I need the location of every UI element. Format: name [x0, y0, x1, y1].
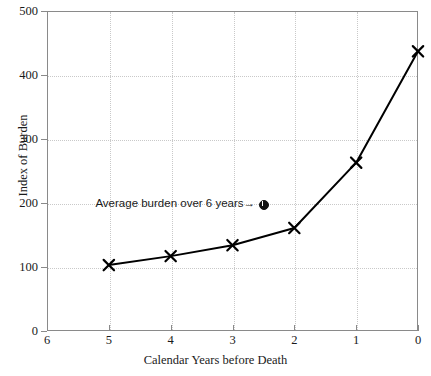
gridline-x-5 [110, 12, 111, 330]
y-axis-title: Index of Burden [16, 86, 31, 226]
gridline-y-300 [48, 140, 417, 141]
xtick-mark-6 [47, 325, 48, 331]
annotation-label: Average burden over 6 years→ [95, 198, 255, 210]
xtick-mark-2 [294, 325, 295, 331]
ytick-mark-100 [41, 267, 47, 268]
gridline-x-2 [295, 12, 296, 330]
gridline-x-3 [234, 12, 235, 330]
ytick-label-100: 100 [19, 261, 38, 274]
ytick-mark-400 [41, 75, 47, 76]
xtick-mark-4 [171, 325, 172, 331]
ytick-mark-200 [41, 203, 47, 204]
ytick-mark-500 [41, 11, 47, 12]
gridline-y-100 [48, 268, 417, 269]
xtick-label-4: 4 [168, 334, 174, 347]
plot-area [47, 11, 418, 331]
xtick-label-5: 5 [106, 334, 112, 347]
ytick-mark-0 [41, 331, 47, 332]
xtick-label-2: 2 [291, 334, 297, 347]
gridline-x-1 [357, 12, 358, 330]
xtick-label-0: 0 [415, 334, 421, 347]
xtick-mark-0 [418, 325, 419, 331]
x-axis-title: Calendar Years before Death [0, 353, 431, 368]
gridline-x-4 [172, 12, 173, 330]
ytick-mark-300 [41, 139, 47, 140]
ytick-label-400: 400 [19, 69, 38, 82]
gridline-y-400 [48, 76, 417, 77]
chart-figure: 500 400 300 200 100 0 6 5 4 3 2 1 0 Cale… [0, 0, 431, 376]
xtick-label-1: 1 [353, 334, 359, 347]
xtick-mark-5 [109, 325, 110, 331]
ytick-label-0: 0 [32, 325, 38, 338]
xtick-label-3: 3 [229, 334, 235, 347]
xtick-mark-3 [233, 325, 234, 331]
xtick-label-6: 6 [44, 334, 50, 347]
ytick-label-500: 500 [19, 5, 38, 18]
xtick-mark-1 [356, 325, 357, 331]
